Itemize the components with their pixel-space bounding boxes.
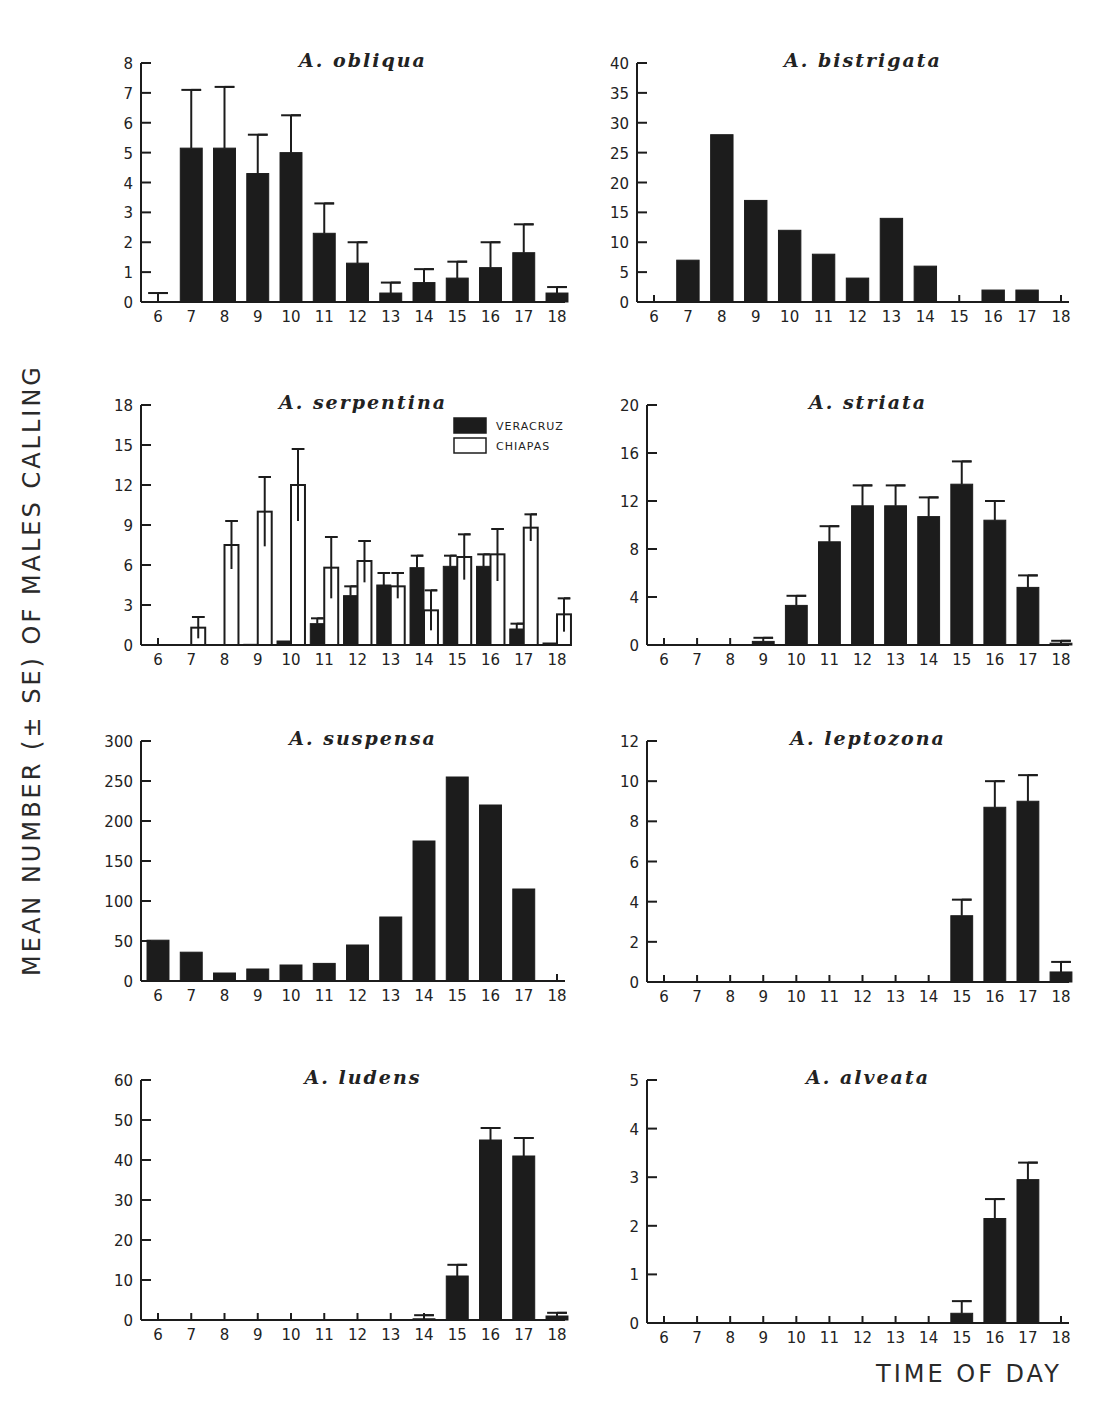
x-tick-label: 11 xyxy=(820,988,839,1006)
bar xyxy=(546,1316,568,1320)
y-tick-label: 8 xyxy=(629,813,639,831)
bar xyxy=(410,568,424,645)
x-tick-label: 14 xyxy=(414,1326,433,1344)
x-tick-label: 14 xyxy=(919,988,938,1006)
chart-grid: 0123456786789101112131415161718A. obliqu… xyxy=(0,0,1112,1420)
bar xyxy=(277,641,291,645)
x-tick-label: 15 xyxy=(950,308,969,326)
y-tick-label: 15 xyxy=(610,204,629,222)
y-tick-label: 100 xyxy=(104,893,133,911)
bar xyxy=(443,566,457,645)
bar xyxy=(513,1156,535,1320)
x-tick-label: 10 xyxy=(780,308,799,326)
x-tick-label: 11 xyxy=(814,308,833,326)
x-tick-label: 18 xyxy=(1051,651,1070,669)
x-tick-label: 18 xyxy=(547,987,566,1005)
chart-panel-a-suspensa: 0501001502002503006789101112131415161718… xyxy=(104,727,566,1005)
y-tick-label: 2 xyxy=(629,1218,639,1236)
y-tick-label: 50 xyxy=(114,1112,133,1130)
bar xyxy=(380,293,402,302)
x-tick-label: 12 xyxy=(853,1329,872,1347)
x-tick-label: 6 xyxy=(659,1329,669,1347)
x-tick-label: 6 xyxy=(153,308,163,326)
x-tick-label: 16 xyxy=(481,987,500,1005)
y-tick-label: 30 xyxy=(114,1192,133,1210)
bar xyxy=(951,916,973,982)
y-tick-label: 20 xyxy=(114,1232,133,1250)
x-tick-label: 10 xyxy=(281,987,300,1005)
legend-swatch xyxy=(454,418,486,433)
bar xyxy=(313,963,335,981)
bar xyxy=(752,641,774,645)
bar xyxy=(543,643,557,645)
bar xyxy=(1017,587,1039,645)
chart-panel-a-obliqua: 0123456786789101112131415161718A. obliqu… xyxy=(123,49,568,326)
bar xyxy=(147,940,169,981)
y-tick-label: 8 xyxy=(629,541,639,559)
x-tick-label: 10 xyxy=(281,308,300,326)
x-tick-label: 7 xyxy=(186,308,196,326)
x-tick-label: 9 xyxy=(253,651,263,669)
bar xyxy=(1050,972,1072,982)
x-tick-label: 7 xyxy=(186,1326,196,1344)
bar xyxy=(446,777,468,981)
x-tick-label: 16 xyxy=(481,308,500,326)
x-tick-label: 6 xyxy=(153,1326,163,1344)
y-tick-label: 0 xyxy=(123,973,133,991)
chart-title: A. serpentina xyxy=(277,391,447,413)
x-tick-label: 17 xyxy=(514,651,533,669)
x-tick-label: 15 xyxy=(952,988,971,1006)
bar xyxy=(951,1313,973,1323)
x-tick-label: 9 xyxy=(253,987,263,1005)
x-tick-label: 8 xyxy=(725,988,735,1006)
x-tick-label: 9 xyxy=(253,1326,263,1344)
y-tick-label: 2 xyxy=(123,234,133,252)
x-tick-label: 13 xyxy=(381,987,400,1005)
y-tick-label: 4 xyxy=(629,589,639,607)
x-tick-label: 17 xyxy=(514,987,533,1005)
x-tick-label: 16 xyxy=(481,651,500,669)
legend-label: VERACRUZ xyxy=(496,420,564,433)
x-tick-label: 16 xyxy=(985,651,1004,669)
bar xyxy=(745,200,767,302)
x-tick-label: 7 xyxy=(692,1329,702,1347)
chart-title: A. ludens xyxy=(303,1066,422,1088)
bar xyxy=(1050,643,1072,645)
y-tick-label: 4 xyxy=(629,894,639,912)
x-tick-label: 13 xyxy=(381,1326,400,1344)
y-tick-label: 12 xyxy=(620,733,639,751)
chart-panel-a-striata: 0481216206789101112131415161718A. striat… xyxy=(620,391,1072,669)
x-tick-label: 15 xyxy=(448,987,467,1005)
y-tick-label: 40 xyxy=(610,55,629,73)
x-tick-label: 8 xyxy=(220,651,230,669)
y-tick-label: 0 xyxy=(629,637,639,655)
chart-panel-a-alveata: 0123456789101112131415161718A. alveata xyxy=(629,1066,1070,1347)
x-tick-label: 18 xyxy=(547,1326,566,1344)
y-tick-label: 35 xyxy=(610,85,629,103)
bar xyxy=(510,629,524,645)
bar xyxy=(480,1140,502,1320)
x-tick-label: 14 xyxy=(919,1329,938,1347)
y-tick-label: 3 xyxy=(123,204,133,222)
x-tick-label: 13 xyxy=(882,308,901,326)
x-tick-label: 10 xyxy=(281,651,300,669)
x-tick-label: 17 xyxy=(1018,1329,1037,1347)
legend-label: CHIAPAS xyxy=(496,440,550,453)
x-tick-label: 12 xyxy=(348,651,367,669)
y-tick-label: 25 xyxy=(610,145,629,163)
bar xyxy=(180,148,202,302)
bar xyxy=(778,230,800,302)
x-tick-label: 15 xyxy=(952,1329,971,1347)
x-tick-label: 6 xyxy=(649,308,659,326)
x-tick-label: 14 xyxy=(414,308,433,326)
bar xyxy=(914,266,936,302)
x-tick-label: 17 xyxy=(1018,988,1037,1006)
chart-panel-a-serpentina: 03691215186789101112131415161718A. serpe… xyxy=(114,391,571,669)
x-tick-label: 15 xyxy=(952,651,971,669)
x-tick-label: 16 xyxy=(984,308,1003,326)
bar xyxy=(885,506,907,645)
bar xyxy=(244,644,258,645)
y-tick-label: 300 xyxy=(104,733,133,751)
y-tick-label: 200 xyxy=(104,813,133,831)
y-tick-label: 1 xyxy=(123,264,133,282)
